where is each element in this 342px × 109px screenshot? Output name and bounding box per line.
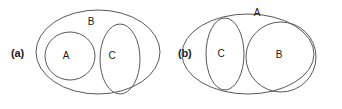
set-c-outline-panel-a bbox=[100, 24, 140, 94]
set-a-label-panel-a: A bbox=[63, 50, 70, 61]
diagram-panel-a: (a) B A C bbox=[0, 0, 171, 109]
panel-a-canvas: B A C bbox=[0, 0, 171, 109]
set-b-outline-panel-a bbox=[36, 10, 160, 94]
set-a-outline-panel-a bbox=[45, 32, 95, 80]
set-c-outline-panel-b bbox=[206, 18, 244, 90]
panel-b-canvas: A C B bbox=[171, 0, 342, 109]
euler-diagram-figure: (a) B A C (b) A C B bbox=[0, 0, 342, 109]
set-a-label-panel-b: A bbox=[254, 7, 261, 18]
diagram-panel-b: (b) A C B bbox=[171, 0, 342, 109]
set-b-label-panel-a: B bbox=[88, 16, 95, 27]
set-c-label-panel-b: C bbox=[217, 48, 224, 59]
set-a-outline-panel-b bbox=[182, 14, 314, 94]
set-c-label-panel-a: C bbox=[108, 50, 115, 61]
set-b-label-panel-b: B bbox=[276, 49, 283, 60]
